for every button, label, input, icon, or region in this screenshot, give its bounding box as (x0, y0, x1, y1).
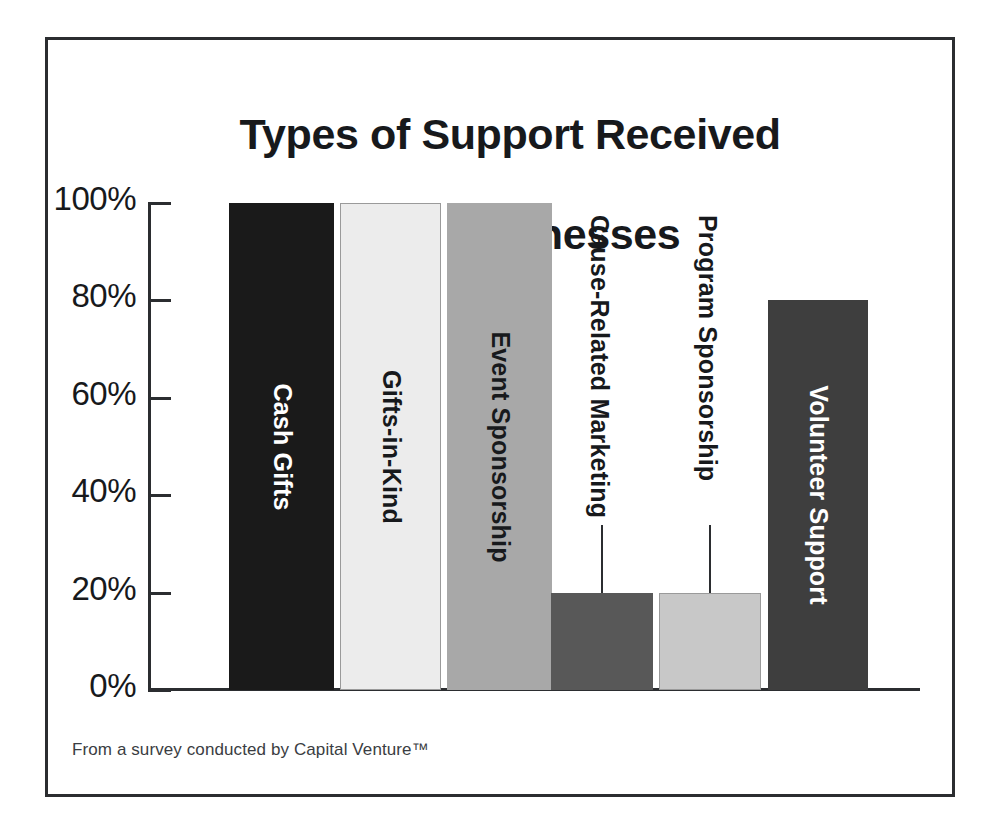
label-leader-line (601, 525, 603, 593)
bar-volunteer-support[interactable]: Volunteer Support (768, 300, 868, 690)
y-axis-tick-label: 20% (28, 570, 136, 608)
y-axis-tick-label: 80% (28, 277, 136, 315)
bar-label: Event Sponsorship (485, 331, 514, 562)
chart-footnote: From a survey conducted by Capital Ventu… (72, 740, 429, 760)
bar-cash-gifts[interactable]: Cash Gifts (229, 203, 334, 690)
bar-program-sponsorship[interactable] (659, 593, 761, 690)
bar-gifts-in-kind[interactable]: Gifts-in-Kind (340, 203, 441, 690)
bar-label: Gifts-in-Kind (376, 370, 405, 524)
label-leader-line (709, 525, 711, 593)
y-axis-tick-label: 40% (28, 472, 136, 510)
bar-label: Volunteer Support (804, 385, 833, 605)
chart-figure: Types of Support Received from Businesse… (0, 0, 995, 839)
bar-event-sponsorship[interactable]: Event Sponsorship (447, 203, 552, 690)
bar-label: Cash Gifts (267, 383, 296, 510)
bar-cause-related-marketing[interactable] (551, 593, 653, 690)
chart-title-line-1: Types of Support Received (239, 110, 780, 158)
y-axis-tick-labels: 100%80%60%40%20%0% (24, 0, 136, 839)
bar-label-external: Cause-Related Marketing (585, 215, 614, 518)
y-axis-tick-label: 60% (28, 375, 136, 413)
y-axis-tick-label: 100% (28, 180, 136, 218)
bar-label-external: Program Sponsorship (693, 215, 722, 481)
y-axis-tick-label: 0% (28, 667, 136, 705)
plot-area: Cash GiftsGifts-in-KindEvent Sponsorship… (148, 203, 918, 690)
